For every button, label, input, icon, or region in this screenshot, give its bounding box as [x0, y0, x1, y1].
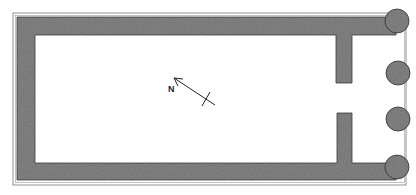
column-middle-lower	[386, 107, 410, 131]
north-arrow	[174, 78, 215, 106]
column-bottom-corner	[385, 155, 409, 179]
column-middle-upper	[386, 61, 410, 85]
column-top-corner	[385, 9, 409, 33]
north-arrow-crossbar	[202, 92, 210, 106]
north-label: N	[168, 84, 175, 94]
north-arrow-shaft	[174, 78, 215, 105]
floor-plan: N	[0, 0, 416, 195]
